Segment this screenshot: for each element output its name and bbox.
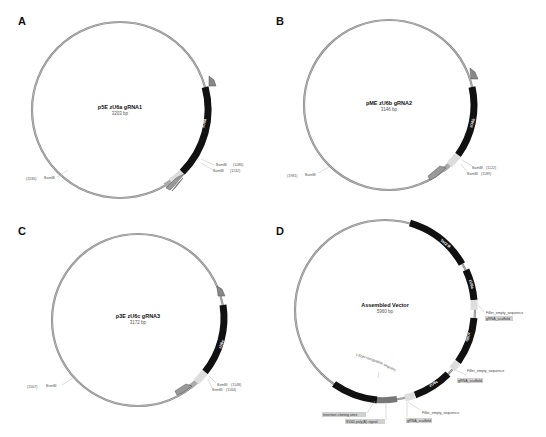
plasmid-size: 5960 bp bbox=[377, 309, 394, 314]
plasmid-size: 3146 bp bbox=[381, 107, 398, 112]
site-label: BamBI bbox=[305, 173, 316, 177]
site-label: BamBI bbox=[472, 166, 483, 170]
panel-letter-b: B bbox=[276, 15, 284, 27]
panel-c: C zU6c p3E zU6c gRNA3 3172 bp BsmBI (114… bbox=[18, 225, 241, 406]
site-label: BsmBI bbox=[212, 388, 223, 392]
plasmid-title: p5E zU6a gRNA1 bbox=[98, 104, 142, 110]
site-position: (2007) bbox=[27, 385, 37, 389]
panel-letter-c: C bbox=[18, 225, 26, 237]
annotation-tag: gRNA_scaffold bbox=[458, 379, 482, 383]
site-position: (1132) bbox=[230, 169, 240, 173]
plasmid-figure: A zU6a p5E zU6a gRNA1 3203 bp BamBI (108… bbox=[0, 0, 546, 437]
site-label: BsmBI bbox=[46, 384, 57, 388]
plasmid-title: Assembled Vector bbox=[361, 302, 410, 308]
panel-a: A zU6a p5E zU6a gRNA1 3203 bp BamBI (108… bbox=[18, 15, 243, 198]
promoter-segment bbox=[182, 87, 208, 172]
promoter-segment bbox=[205, 305, 224, 372]
plasmid-size: 3172 bp bbox=[130, 320, 147, 325]
site-position: (1086) bbox=[233, 163, 243, 167]
segment-tol2-r bbox=[410, 223, 462, 264]
arrow-feature-icon bbox=[217, 286, 225, 296]
panel-letter-a: A bbox=[18, 15, 26, 27]
annotation-tag: insertion cloning sites bbox=[323, 413, 358, 417]
annotation-label: Filler_empty_sequence bbox=[422, 411, 459, 415]
arrow-feature-icon bbox=[209, 76, 216, 86]
site-label: BamBI bbox=[467, 172, 478, 176]
site-position: (1148) bbox=[231, 383, 241, 387]
site-position: (2036) bbox=[26, 177, 36, 181]
site-label: BsmBI bbox=[217, 383, 228, 387]
site-label: BamBI bbox=[213, 169, 224, 173]
annotation-tag: SV40 poly(A) signal bbox=[346, 420, 378, 424]
plasmid-title: pME zU6b gRNA2 bbox=[366, 100, 412, 106]
filler-box bbox=[196, 372, 205, 382]
filler-box bbox=[449, 155, 458, 165]
plasmid-size: 3203 bp bbox=[112, 111, 129, 116]
panel-letter-d: D bbox=[276, 225, 284, 237]
site-position: (1164) bbox=[226, 388, 236, 392]
arrow-feature-icon bbox=[428, 166, 446, 180]
site-position: (1189) bbox=[481, 172, 491, 176]
site-position: (1122) bbox=[486, 166, 496, 170]
site-position: (1981) bbox=[287, 174, 297, 178]
filler-box bbox=[405, 395, 415, 398]
annotation-label: Filler_empty_sequence bbox=[467, 369, 504, 373]
filler-box bbox=[452, 362, 458, 369]
panel-b: B zU6b pME zU6b gRNA2 3146 bp BamBI (112… bbox=[276, 15, 496, 190]
arrow-feature-icon bbox=[470, 68, 478, 79]
panel-d: D Tol2 R zU6a zU6b zU6c Tol2 L Assembled… bbox=[0, 0, 523, 424]
annotation-label: I-SceI recognition sequence bbox=[0, 0, 397, 373]
segment-sv40 bbox=[377, 399, 397, 400]
site-label: BamBI bbox=[44, 176, 55, 180]
annotation-tag: gRNA_scaffold bbox=[486, 317, 510, 321]
annotation-tag: gRNA_scaffold bbox=[407, 419, 431, 423]
annotation-label: Filler_empty_sequence bbox=[486, 311, 523, 315]
site-label: BamBI bbox=[216, 163, 227, 167]
plasmid-title: p3E zU6c gRNA3 bbox=[116, 313, 160, 319]
